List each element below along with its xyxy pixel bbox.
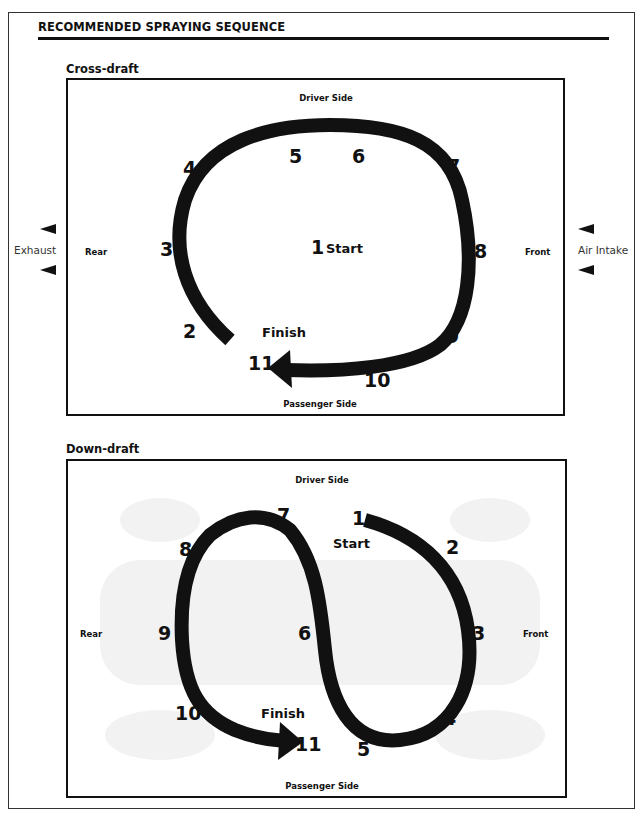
down-draft-front-label: Front <box>523 629 548 639</box>
cross-draft-rear-label: Rear <box>85 247 108 257</box>
down-step-10: 10 <box>175 702 201 724</box>
down-step-9: 9 <box>158 622 171 644</box>
down-step-11: 11 <box>295 733 321 755</box>
exhaust-arrow-top-icon <box>40 224 56 234</box>
down-step-8: 8 <box>179 538 192 560</box>
down-step-3: 3 <box>472 622 485 644</box>
cross-step-6: 6 <box>352 145 365 167</box>
cross-step-4: 4 <box>183 157 196 179</box>
cross-step-7: 7 <box>447 155 460 177</box>
down-finish-label: Finish <box>261 706 305 721</box>
down-draft-driver-side-label: Driver Side <box>295 475 349 485</box>
intake-arrow-bottom-icon <box>578 265 594 275</box>
down-draft-rear-label: Rear <box>80 629 103 639</box>
cross-step-3: 3 <box>160 238 173 260</box>
cross-draft-driver-side-label: Driver Side <box>299 93 353 103</box>
exhaust-arrow-bottom-icon <box>40 265 56 275</box>
cross-draft-passenger-side-label: Passenger Side <box>283 399 357 409</box>
down-step-6: 6 <box>298 622 311 644</box>
down-step-2: 2 <box>446 536 459 558</box>
cross-draft-front-label: Front <box>525 247 550 257</box>
cross-step-2: 2 <box>183 320 196 342</box>
air-intake-label: Air Intake <box>578 244 628 256</box>
spray-diagrams: Driver Side Passenger Side Rear Front Ex… <box>0 0 643 814</box>
cross-step-1: 1 <box>311 236 324 258</box>
down-step-7: 7 <box>277 504 290 526</box>
intake-arrow-top-icon <box>578 224 594 234</box>
down-step-1: 1 <box>352 507 365 529</box>
down-draft-passenger-side-label: Passenger Side <box>285 781 359 791</box>
cross-step-5: 5 <box>289 145 302 167</box>
down-step-5: 5 <box>357 738 370 760</box>
exhaust-label: Exhaust <box>14 244 56 256</box>
cross-step-11: 11 <box>248 352 274 374</box>
down-start-label: Start <box>333 536 370 551</box>
cross-step-9: 9 <box>446 325 459 347</box>
cross-finish-label: Finish <box>262 325 306 340</box>
down-step-4: 4 <box>443 707 456 729</box>
cross-step-10: 10 <box>364 369 390 391</box>
cross-start-label: Start <box>326 241 363 256</box>
cross-step-8: 8 <box>474 240 487 262</box>
